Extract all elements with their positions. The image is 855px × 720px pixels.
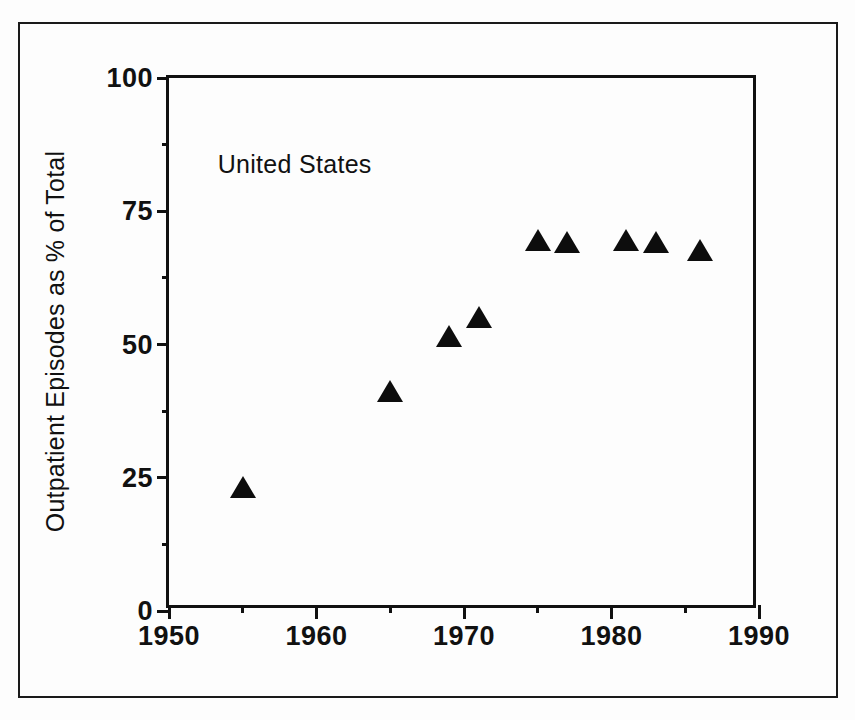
x-tick-minor [389,605,392,613]
data-point-marker [377,380,403,402]
x-tick-minor [536,605,539,613]
data-point-marker [230,476,256,498]
x-tick-major [168,605,171,619]
x-tick-label: 1990 [728,621,790,652]
y-tick-label: 25 [122,462,153,493]
x-tick-label: 1980 [580,621,642,652]
x-tick-label: 1960 [285,621,347,652]
data-point-marker [687,239,713,261]
x-tick-label: 1950 [138,621,200,652]
x-tick-minor [684,605,687,613]
y-tick-major [157,77,169,80]
y-tick-label: 100 [106,63,153,94]
series-annotation-label: United States [218,150,372,179]
y-tick-label: 50 [122,329,153,360]
y-tick-minor [162,143,169,146]
x-tick-major [463,605,466,619]
y-tick-label: 75 [122,196,153,227]
x-tick-major [758,605,761,619]
x-tick-major [315,605,318,619]
data-point-marker [643,231,669,253]
y-tick-major [157,210,169,213]
data-point-marker [436,325,462,347]
y-axis-title: Outpatient Episodes as % of Total [36,75,76,608]
x-tick-minor [241,605,244,613]
y-tick-minor [162,276,169,279]
x-tick-label: 1970 [433,621,495,652]
data-point-marker [466,306,492,328]
x-tick-major [610,605,613,619]
plot-area: 0255075100 19501960197019801990 United S… [166,75,756,608]
data-point-marker [613,229,639,251]
data-point-marker [554,231,580,253]
y-tick-major [157,476,169,479]
y-axis-title-text: Outpatient Episodes as % of Total [42,151,71,532]
y-tick-minor [162,543,169,546]
data-point-marker [525,229,551,251]
figure-canvas: Outpatient Episodes as % of Total 025507… [0,0,855,720]
y-tick-minor [162,410,169,413]
y-tick-major [157,343,169,346]
